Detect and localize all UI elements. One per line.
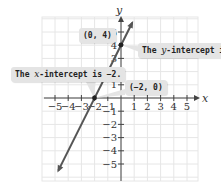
callout-text: The bbox=[15, 70, 34, 79]
x-tick-label: 2 bbox=[144, 101, 150, 112]
point-label-y-intercept: (0, 4) bbox=[79, 28, 116, 43]
axes bbox=[44, 16, 200, 181]
callout-text: -intercept is −2. bbox=[39, 70, 121, 79]
y-tick-label: −1 bbox=[102, 106, 117, 117]
callout-y-intercept: The y-intercept is 4. bbox=[138, 43, 221, 58]
callout-text: The bbox=[142, 46, 161, 55]
x-tick-label: 5 bbox=[184, 101, 190, 112]
x-intercept-point bbox=[92, 96, 97, 101]
x-axis-arrow-icon bbox=[194, 95, 200, 101]
x-tick-label: 3 bbox=[157, 101, 163, 112]
x-tick-label: 1 bbox=[131, 101, 137, 112]
point-label-text: (−2, 0) bbox=[129, 83, 163, 92]
y-tick-label: −4 bbox=[102, 145, 117, 156]
y-tick-label: −3 bbox=[102, 132, 117, 143]
y-intercept-point bbox=[119, 43, 124, 48]
point-label-x-intercept: (−2, 0) bbox=[125, 80, 167, 95]
callout-text: -intercept is 4. bbox=[166, 46, 221, 55]
y-axis-label: y bbox=[115, 4, 123, 17]
x-axis-label: x bbox=[202, 92, 209, 105]
x-tick-label: 4 bbox=[171, 101, 177, 112]
y-tick-label: −5 bbox=[102, 159, 117, 170]
point-label-text: (0, 4) bbox=[83, 31, 112, 40]
y-tick-label: −2 bbox=[102, 119, 117, 130]
callout-x-intercept: The x-intercept is −2. bbox=[11, 67, 125, 82]
